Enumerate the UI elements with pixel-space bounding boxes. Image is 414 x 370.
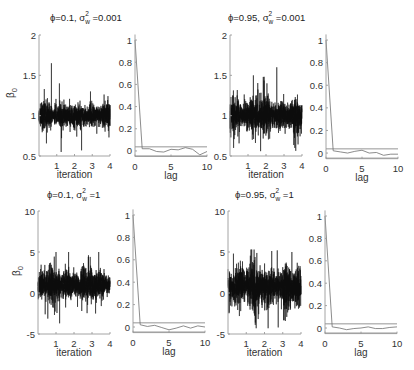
y-tick-label: 0 [30,288,35,299]
x-axis-label: iteration [56,347,92,358]
x-tick-label: 0 [130,337,135,348]
x-axis-label: lag [354,347,367,358]
acf-series [133,215,205,330]
ylabel-subscript: 0 [16,266,25,270]
panel-title: ϕ=0.95, σ2w =0.001 [228,10,305,25]
x-tick-label: 10 [392,338,403,349]
title-suffix: =0.001 [273,12,305,23]
y-tick-label: 0.8 [310,57,323,68]
acf-panel-bottom-right: 051000.20.40.60.81lag [309,210,403,357]
x-tick-label: 10 [202,161,213,172]
mcmc-diagnostics-figure: 12340.511.52iterationϕ=0.1, σ2w =0.001β0… [0,0,414,370]
trace-panel-bottom-left: 1234-50510iterationϕ=0.1, σ2w =1β0 [11,187,113,358]
y-tick-label: 10 [24,206,35,217]
y-tick-label: 5 [30,247,35,258]
title-suffix: =1 [280,189,293,200]
title-suffix: =0.001 [90,12,122,23]
y-tick-label: -5 [217,329,225,340]
trace-panel-bottom-right: 1234-50510iterationϕ=0.95, σ2w =1 [214,187,303,358]
trace-series [39,63,110,152]
x-axis-label: lag [162,346,175,357]
trace-series [230,67,302,151]
y-tick-label: 0 [125,322,130,333]
y-tick-label: 2 [31,30,36,41]
title-prefix: ϕ=0.95, σ [228,12,269,23]
x-axis-label: iteration [248,169,284,180]
x-axis-label: lag [164,170,177,181]
x-tick-label: 0 [323,163,328,174]
x-tick-label: 0 [132,161,137,172]
y-tick-label: 1 [125,210,130,221]
y-tick-label: 0.2 [310,125,323,136]
x-tick-label: 10 [200,337,211,348]
x-tick-label: 4 [107,338,112,349]
y-axis-label: β0 [5,88,19,98]
y-tick-label: 0.6 [117,254,130,265]
acf-panel-top-right: 051000.20.40.60.81lag [310,34,404,182]
trace-panel-top-left: 12340.511.52iterationϕ=0.1, σ2w =0.001β0 [5,10,122,180]
y-tick-label: 10 [214,206,225,217]
y-tick-label: 0.2 [117,299,130,310]
x-tick-label: 4 [299,160,304,171]
y-tick-label: 0 [220,288,225,299]
y-tick-label: 0.4 [119,101,132,112]
x-tick-label: 0 [322,338,327,349]
y-tick-label: 0 [127,145,132,156]
acf-series [135,40,207,155]
title-superscript: 2 [85,10,89,17]
y-tick-label: 0 [317,323,322,334]
y-tick-label: 1 [31,110,36,121]
x-axis-label: lag [355,172,368,183]
trace-panel-top-right: 12340.511.52iterationϕ=0.95, σ2w =0.001 [214,10,305,180]
panel-title: ϕ=0.95, σ2w =1 [235,187,294,202]
title-suffix: =1 [87,189,100,200]
trace-series [228,250,301,329]
y-tick-label: 1 [318,35,323,46]
y-tick-label: 0.4 [117,277,130,288]
y-tick-label: 0.8 [117,232,130,243]
title-superscript: 2 [269,10,273,17]
y-tick-label: 0 [318,148,323,159]
y-tick-label: 0.2 [119,123,132,134]
x-tick-label: 4 [298,338,303,349]
y-tick-label: 1 [127,35,132,46]
y-tick-label: 0.6 [309,255,322,266]
trace-series [38,252,110,323]
y-axis-label: β0 [11,266,25,276]
y-tick-label: 1 [222,110,227,121]
y-tick-label: 5 [220,247,225,258]
y-tick-label: 0.5 [214,151,227,162]
y-tick-label: 0.4 [309,278,322,289]
figure-canvas: 12340.511.52iterationϕ=0.1, σ2w =0.001β0… [0,0,414,370]
x-tick-label: 4 [107,160,112,171]
acf-panel-top-left: 051000.20.40.60.81lag [119,35,213,181]
panel-title: ϕ=0.1, σ2w =0.001 [50,10,122,25]
y-tick-label: 1.5 [23,70,36,81]
y-tick-label: 0.6 [310,80,323,91]
y-tick-label: 2 [222,30,227,41]
y-tick-label: 1 [317,211,322,222]
ylabel-subscript: 0 [10,88,19,92]
panel-title: ϕ=0.1, σ2w =1 [47,187,100,202]
y-tick-label: 0.2 [309,300,322,311]
y-tick-label: 0.8 [309,233,322,244]
x-axis-label: iteration [57,169,93,180]
y-tick-label: 0.4 [310,102,323,113]
x-tick-label: 10 [393,163,404,174]
title-prefix: ϕ=0.1, σ [47,189,82,200]
y-tick-label: 0.5 [23,151,36,162]
title-prefix: ϕ=0.95, σ [235,189,276,200]
acf-panel-bottom-left: 051000.20.40.60.81lag [117,209,211,356]
title-prefix: ϕ=0.1, σ [50,12,85,23]
y-tick-label: 0.6 [119,79,132,90]
y-tick-label: 0.8 [119,57,132,68]
title-superscript: 2 [82,187,86,194]
title-superscript: 2 [276,187,280,194]
x-axis-label: iteration [247,347,283,358]
acf-series [325,216,397,330]
y-tick-label: 1.5 [214,70,227,81]
acf-series [326,40,398,155]
y-tick-label: -5 [27,329,35,340]
